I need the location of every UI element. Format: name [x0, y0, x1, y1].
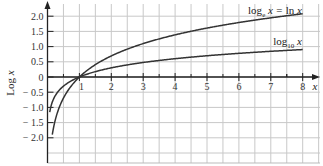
legend-log10-label: log10 x: [273, 35, 302, 50]
x-tick-label: 3: [141, 81, 146, 92]
y-tick-label: 0: [39, 72, 44, 83]
y-tick-label: 2.0: [31, 11, 44, 22]
y-tick-label: − 1.5: [23, 117, 44, 128]
grid: [48, 4, 321, 163]
y-tick-label: − 1.0: [23, 102, 44, 113]
x-axis-label: x: [312, 80, 318, 92]
curve-ln: [52, 14, 302, 135]
y-tick-label: 0.5: [31, 56, 44, 67]
x-tick-label: 6: [236, 81, 241, 92]
curves: [50, 14, 303, 135]
y-axis-label: Log x: [4, 70, 16, 95]
y-tick-label: − 2.0: [23, 132, 44, 143]
log-chart: 12345678x2.01.51.00.50− 0.5− 1.0− 1.5− 2…: [0, 0, 323, 166]
y-tick-label: 1.0: [31, 41, 44, 52]
x-tick-label: 8: [300, 81, 305, 92]
axes: 12345678x2.01.51.00.50− 0.5− 1.0− 1.5− 2…: [4, 1, 320, 163]
x-tick-label: 2: [109, 81, 114, 92]
y-tick-label: 1.5: [31, 26, 44, 37]
x-tick-label: 4: [173, 81, 178, 92]
x-tick-label: 5: [205, 81, 210, 92]
x-tick-label: 1: [79, 81, 84, 92]
x-tick-label: 7: [268, 81, 273, 92]
y-axis-arrow-icon: [45, 1, 51, 9]
y-tick-label: − 0.5: [23, 87, 44, 98]
labels: loge x = ln xlog10 x: [248, 4, 302, 50]
